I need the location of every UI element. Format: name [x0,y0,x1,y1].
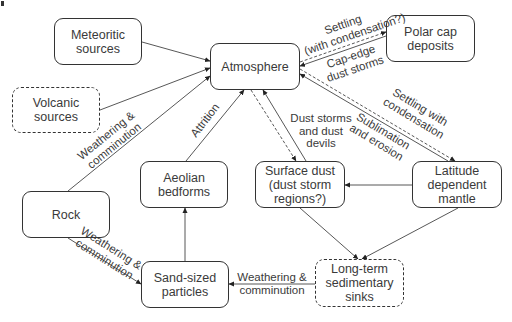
node-label: Polar cap deposits [404,25,457,53]
edge-latitude-mantle-to-sinks [362,208,458,259]
node-aeolian-bedforms: Aeolian bedforms [140,161,228,208]
node-sand-sized-particles: Sand-sized particles [141,261,229,308]
node-latitude-dependent-mantle: Latitude dependent mantle [412,161,502,208]
node-label: Long-term sedimentary sinks [325,262,393,304]
edge-surface-dust-to-sinks [300,208,358,259]
node-label: Sand-sized particles [154,271,217,299]
node-label: Latitude dependent mantle [427,164,486,206]
node-atmosphere: Atmosphere [210,43,300,90]
node-surface-dust: Surface dust (dust storm regions?) [255,161,345,208]
node-label: Aeolian bedforms [158,171,210,199]
label-sinks-to-sand: Weathering & comminution [232,271,312,296]
node-meteoritic-sources: Meteoritic sources [54,18,142,65]
node-label: Rock [52,208,80,222]
node-label: Atmosphere [221,60,288,74]
label-dust-storms-devils: Dust storms and dust devils [286,112,356,150]
node-label: Meteoritic sources [71,28,125,56]
edge-meteoritic-to-atmosphere [142,42,210,61]
node-label: Surface dust (dust storm regions?) [265,164,335,206]
node-volcanic-sources: Volcanic sources [12,87,100,133]
node-label: Volcanic sources [33,96,80,124]
node-long-term-sedimentary-sinks: Long-term sedimentary sinks [315,259,404,307]
